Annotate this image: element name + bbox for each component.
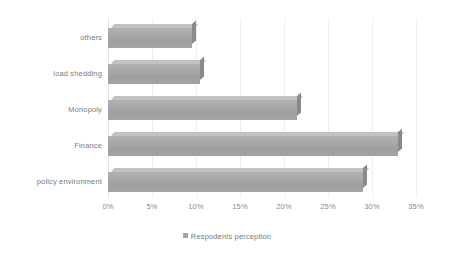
bar-side-face <box>297 92 301 116</box>
category-label-finance: Finance <box>2 141 102 150</box>
category-label-load-shedding: load shedding <box>2 69 102 78</box>
category-label-monopoly: Monopoly <box>2 105 102 114</box>
bar <box>108 28 192 48</box>
bar <box>108 64 200 84</box>
bar-side-face <box>192 20 196 44</box>
bar-row <box>108 164 416 200</box>
legend-label: Respodents perception <box>191 232 271 241</box>
bar-front-face <box>108 64 200 84</box>
x-tick-35pct: 35% <box>396 202 436 211</box>
bar <box>108 136 398 156</box>
gridline-35pct <box>416 18 417 198</box>
x-tick-20pct: 20% <box>264 202 304 211</box>
x-tick-0pct: 0% <box>88 202 128 211</box>
x-tick-5pct: 5% <box>132 202 172 211</box>
bar <box>108 172 363 192</box>
bar-chart: policy environmentFinanceMonopolyload sh… <box>0 0 454 256</box>
x-tick-10pct: 10% <box>176 202 216 211</box>
x-tick-15pct: 15% <box>220 202 260 211</box>
bar-front-face <box>108 100 297 120</box>
x-tick-30pct: 30% <box>352 202 392 211</box>
bar-side-face <box>200 56 204 80</box>
legend-item: Respodents perception <box>183 231 271 241</box>
chart-legend: Respodents perception <box>0 231 454 241</box>
category-label-policy-environment: policy environment <box>2 177 102 186</box>
category-label-others: others <box>2 33 102 42</box>
bar-front-face <box>108 172 363 192</box>
bar-front-face <box>108 136 398 156</box>
plot-area <box>108 18 416 198</box>
bar-front-face <box>108 28 192 48</box>
bar-row <box>108 56 416 92</box>
bar-side-face <box>363 164 367 188</box>
bar-row <box>108 20 416 56</box>
legend-swatch-icon <box>183 233 188 238</box>
bar-side-face <box>398 128 402 152</box>
x-tick-25pct: 25% <box>308 202 348 211</box>
bar-row <box>108 128 416 164</box>
bar <box>108 100 297 120</box>
x-axis-tick-labels: 0%5%10%15%20%25%30%35% <box>0 202 454 216</box>
bar-row <box>108 92 416 128</box>
